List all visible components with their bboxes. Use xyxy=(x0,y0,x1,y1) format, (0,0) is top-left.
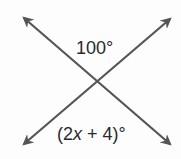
angle-diagram: 100° (2x + 4)° xyxy=(0,0,181,159)
angle-expr-rest: + 4)° xyxy=(82,124,126,144)
angle-expr-open: (2 xyxy=(57,124,73,144)
angle-expr-variable: x xyxy=(73,124,82,144)
angle-label-bottom: (2x + 4)° xyxy=(57,125,126,143)
angle-label-top: 100° xyxy=(76,39,113,57)
